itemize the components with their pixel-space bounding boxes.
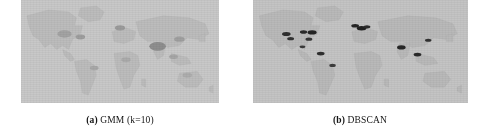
north-south-america-cluster-marker <box>316 52 324 56</box>
india-cluster-marker <box>149 42 166 51</box>
india-cluster-marker <box>397 45 406 49</box>
west-europe-cluster-marker <box>115 25 125 30</box>
africa-cluster-marker <box>121 57 131 62</box>
cluster-overlay-dbscan <box>253 0 468 103</box>
subfigure-caption-gmm: (a) GMM (k=10) <box>86 115 154 125</box>
subfigure-dbscan: (b) DBSCAN <box>253 0 468 125</box>
world-map-dbscan <box>253 0 468 103</box>
subfigure-caption-dbscan: (b) DBSCAN <box>333 115 387 125</box>
cluster-overlay-gmm <box>21 0 219 103</box>
east-asia-cluster-marker <box>174 36 184 41</box>
us-southwest-cluster-marker <box>287 37 294 40</box>
central-europe-cluster-marker <box>363 25 370 28</box>
central-america-cluster-marker <box>299 45 305 48</box>
usa-east-cluster-marker <box>76 35 86 40</box>
us-northeast-cluster-marker <box>307 30 316 34</box>
world-map-gmm <box>21 0 219 103</box>
figure-panel-row: (a) GMM (k=10) <box>0 0 478 138</box>
brazil-cluster-marker <box>329 64 335 67</box>
subfigure-title-b: DBSCAN <box>348 115 387 125</box>
south-america-cluster-marker <box>90 66 99 71</box>
subfigure-label-b: (b) <box>333 115 345 125</box>
southeast-asia-cluster-marker <box>413 53 421 57</box>
us-southeast-cluster-marker <box>305 37 312 40</box>
subfigure-gmm: (a) GMM (k=10) <box>11 0 230 125</box>
southeast-asia-cluster-marker <box>169 54 178 59</box>
subfigure-label-a: (a) <box>86 115 98 125</box>
us-west-cluster-marker <box>282 32 291 36</box>
subfigure-title-a: GMM (k=10) <box>100 115 154 125</box>
us-midwest-cluster-marker <box>299 30 306 34</box>
north-america-cluster-marker <box>57 30 71 37</box>
australia-cluster-marker <box>183 73 193 78</box>
east-asia-cluster-marker <box>425 39 431 42</box>
